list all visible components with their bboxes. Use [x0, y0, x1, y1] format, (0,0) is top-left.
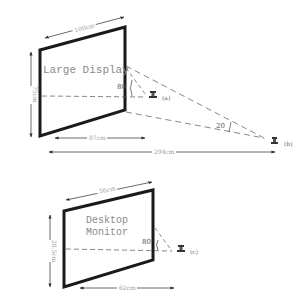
- desktop-monitor-group: Desktop Monitor 56cm 28.5cm 80 (c) 62cm: [46, 182, 198, 292]
- viewer-c-icon: [177, 245, 185, 252]
- desktop-monitor-frame: [64, 190, 153, 287]
- angle-arc-a: [131, 80, 133, 96]
- near-distance-label: 87cm: [89, 134, 106, 141]
- viewer-a-label: (a): [162, 94, 170, 101]
- desktop-label-line1: Desktop: [86, 215, 128, 226]
- angle-arc-c: [157, 240, 159, 250]
- viewing-geometry-diagram: Large Display 100cm 75cm 80 (a) 20: [0, 0, 307, 308]
- viewer-b-label: (b): [284, 140, 293, 147]
- large-display-group: Large Display 100cm 75cm 80 (a) 20: [27, 17, 293, 156]
- sight-line-b-top: [126, 66, 266, 139]
- desktop-distance-label: 62cm: [119, 284, 136, 291]
- desktop-label-line2: Monitor: [86, 227, 128, 238]
- angle-arc-b: [229, 122, 231, 132]
- viewer-c-label: (c): [190, 248, 198, 255]
- sight-line-b-bottom: [126, 112, 264, 138]
- large-height-label: 75cm: [32, 86, 39, 103]
- angle-label-a: 80: [117, 83, 126, 91]
- sight-line-a-top: [126, 68, 146, 95]
- far-distance-label: 294cm: [154, 148, 175, 155]
- viewer-b-icon: [271, 137, 278, 144]
- large-display-label: Large Display: [43, 64, 129, 76]
- angle-label-c: 80: [142, 238, 151, 246]
- angle-label-b: 20: [216, 122, 225, 130]
- large-width-label: 100cm: [74, 21, 96, 33]
- large-display-frame: [40, 27, 125, 136]
- large-center-line: [42, 96, 146, 97]
- sight-line-c-top: [155, 228, 172, 251]
- viewer-a-icon: [149, 91, 157, 98]
- desktop-height-label: 28.5cm: [51, 240, 58, 263]
- desktop-center-line: [66, 249, 172, 251]
